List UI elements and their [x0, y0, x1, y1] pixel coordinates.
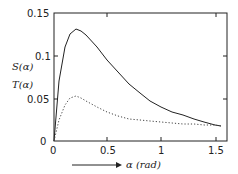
y-axis-ticks [54, 56, 227, 99]
plot-frame [54, 13, 227, 141]
y-tick-0: 0 [40, 136, 46, 147]
series-t-alpha [54, 96, 221, 141]
x-tick-1: 1 [158, 145, 164, 156]
x-axis-ticks [107, 13, 216, 141]
s-alpha-label: S(α) [12, 61, 34, 72]
y-tick-015: 0.15 [27, 8, 49, 19]
x-tick-15: 1.5 [208, 145, 224, 156]
x-axis-label: α (rad) [126, 159, 161, 170]
x-tick-0: 0 [50, 145, 56, 156]
y-tick-01: 0.1 [35, 51, 51, 62]
series-s-alpha [54, 29, 221, 141]
x-tick-05: 0.5 [100, 145, 116, 156]
chart: 0 0.05 0.1 0.15 0 0.5 1 1.5 S(α) T(α) α … [0, 0, 238, 174]
arrow-head-icon [116, 162, 122, 168]
y-tick-005: 0.05 [27, 94, 49, 105]
t-alpha-label: T(α) [12, 79, 33, 90]
